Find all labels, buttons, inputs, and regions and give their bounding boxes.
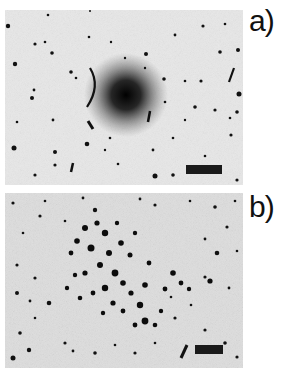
panel-label-b: b) [249, 192, 274, 222]
micrograph-panel-a [5, 10, 243, 185]
micrograph-panel-b [5, 193, 243, 368]
scale-bar-a [186, 165, 222, 174]
scale-bar-b [195, 345, 223, 354]
panel-a-image [5, 10, 243, 185]
panel-b-image [5, 193, 243, 368]
panel-label-a: a) [249, 6, 274, 36]
